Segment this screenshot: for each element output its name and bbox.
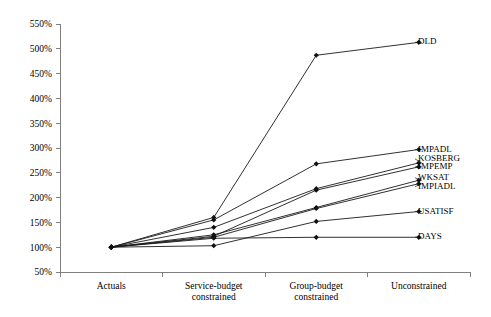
y-tick-label: 550% xyxy=(30,19,52,29)
data-point-marker xyxy=(211,243,216,248)
chart-container: 50%100%150%200%250%300%350%400%450%500%5… xyxy=(0,0,491,317)
data-point-marker xyxy=(109,245,114,250)
y-tick-label: 400% xyxy=(30,94,52,104)
series-line-dld xyxy=(111,42,419,247)
x-tick-label: Unconstrained xyxy=(391,281,447,291)
series-label-dld: DLD xyxy=(418,36,437,46)
y-tick-label: 100% xyxy=(30,243,52,253)
data-point-marker xyxy=(314,235,319,240)
y-tick-label: 50% xyxy=(35,267,53,277)
series-label-impemp: IMPEMP xyxy=(418,161,453,171)
series-label-impiadl: IMPIADL xyxy=(418,181,456,191)
series-label-usatisf: USATISF xyxy=(418,206,454,216)
series-line-impadl xyxy=(111,149,419,247)
line-chart: 50%100%150%200%250%300%350%400%450%500%5… xyxy=(0,0,491,317)
y-tick-label: 200% xyxy=(30,193,52,203)
x-tick-label: Group-budgetconstrained xyxy=(290,281,344,302)
y-axis: 50%100%150%200%250%300%350%400%450%500%5… xyxy=(30,19,60,277)
series-layer xyxy=(109,40,422,250)
series-label-days: DAYS xyxy=(418,231,442,241)
series-labels-layer: DLDIMPADLKOSBERGIMPEMPWKSATIMPIADLUSATIS… xyxy=(415,36,461,241)
y-tick-label: 450% xyxy=(30,69,52,79)
data-point-marker xyxy=(314,53,319,58)
y-tick-label: 150% xyxy=(30,218,52,228)
data-point-marker xyxy=(314,161,319,166)
y-tick-label: 250% xyxy=(30,168,52,178)
y-tick-label: 500% xyxy=(30,44,52,54)
data-point-marker xyxy=(314,219,319,224)
x-tick-label: Actuals xyxy=(97,281,126,291)
y-tick-label: 350% xyxy=(30,119,52,129)
data-point-marker xyxy=(211,225,216,230)
x-axis: ActualsService-budgetconstrainedGroup-bu… xyxy=(60,272,470,302)
x-tick-label: Service-budgetconstrained xyxy=(185,281,243,302)
y-tick-label: 300% xyxy=(30,143,52,153)
